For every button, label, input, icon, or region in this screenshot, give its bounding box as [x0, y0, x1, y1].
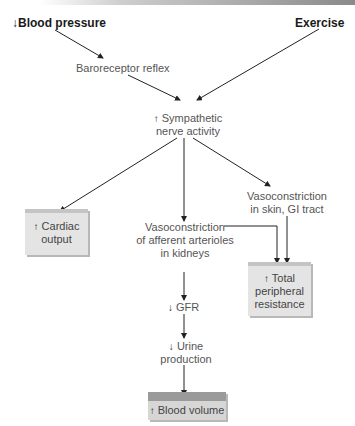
- increase-arrow-icon: ↑: [264, 273, 269, 284]
- node-gfr: ↓ GFR: [168, 301, 199, 314]
- decrease-arrow-icon: ↓: [168, 302, 173, 313]
- node-sympathetic-activity: ↑ Sympathetic nerve activity: [148, 112, 228, 138]
- input-blood-pressure: ↓Blood pressure: [12, 17, 106, 30]
- node-vasoconstriction-kidneys: Vasoconstriction of afferent arterioles …: [134, 221, 236, 260]
- input-exercise: Exercise: [295, 17, 344, 30]
- box-blood-volume: ↑ Blood volume: [148, 392, 226, 420]
- increase-arrow-icon: ↑: [154, 113, 159, 124]
- increase-arrow-icon: ↑: [34, 221, 39, 232]
- box-total-peripheral-resistance: ↑ Total peripheral resistance: [248, 262, 311, 316]
- box-cardiac-output: ↑ Cardiac output: [25, 209, 88, 255]
- node-urine-production: ↓ Urine production: [156, 340, 216, 366]
- node-vasoconstriction-skin: Vasoconstriction in skin, GI tract: [246, 190, 328, 216]
- increase-arrow-icon: ↑: [150, 405, 155, 416]
- node-baroreceptor-reflex: Baroreceptor reflex: [76, 62, 170, 75]
- decrease-arrow-icon: ↓: [169, 341, 174, 352]
